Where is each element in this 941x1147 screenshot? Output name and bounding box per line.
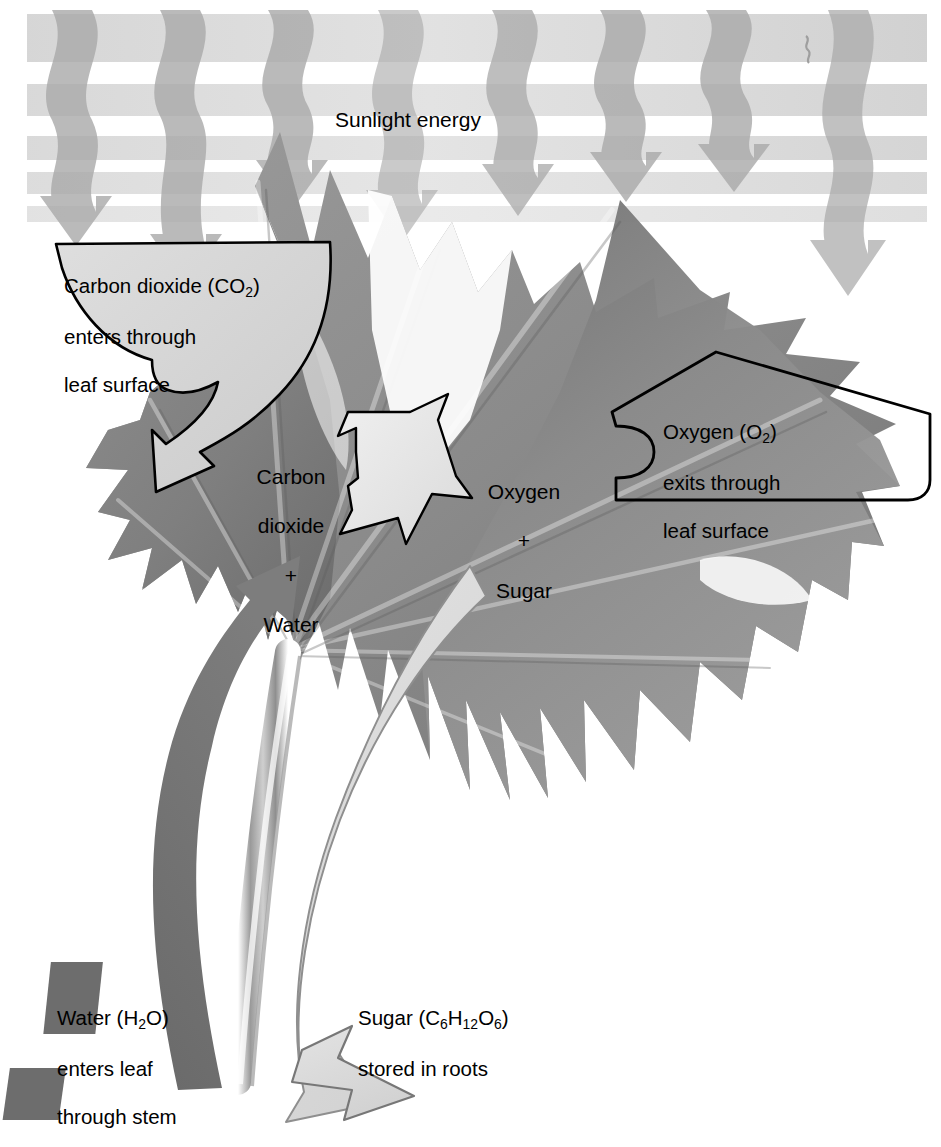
equation-plus-right: + xyxy=(518,529,530,552)
product-1: Oxygen xyxy=(488,480,560,503)
equation-plus-left: + xyxy=(285,564,297,587)
sugar-subscript-h: 12 xyxy=(463,1016,479,1032)
o2-subscript: 2 xyxy=(762,430,770,446)
reactant-2: Water xyxy=(263,613,318,636)
water-line-2: enters leaf xyxy=(57,1057,153,1080)
reactant-1: Carbon xyxy=(257,465,326,488)
water-line-3: through stem xyxy=(57,1105,177,1128)
water-subscript: 2 xyxy=(138,1016,146,1032)
o2-callout-label: Oxygen (O2) exits through leaf surface xyxy=(663,396,780,543)
co2-line-3: leaf surface xyxy=(64,373,170,396)
co2-line-1: Carbon dioxide (CO2) xyxy=(64,274,260,297)
co2-callout-label: Carbon dioxide (CO2) enters through leaf… xyxy=(64,250,260,397)
co2-line-2: enters through xyxy=(64,325,196,348)
sugar-subscript-o: 6 xyxy=(494,1016,502,1032)
sugar-line-1: Sugar (C6H12O6) xyxy=(358,1006,509,1029)
equation-reactants: Carbon dioxide + Water xyxy=(236,440,346,638)
product-2: Sugar xyxy=(496,579,552,602)
sugar-subscript-c: 6 xyxy=(440,1016,448,1032)
reactant-1b: dioxide xyxy=(258,514,325,537)
co2-subscript: 2 xyxy=(245,284,253,300)
sugar-line-2: stored in roots xyxy=(358,1057,488,1080)
sugar-label: Sugar (C6H12O6) stored in roots xyxy=(358,982,509,1081)
o2-line-3: leaf surface xyxy=(663,519,769,542)
o2-line-1: Oxygen (O2) xyxy=(663,420,777,443)
equation-products: Oxygen + Sugar xyxy=(470,455,578,604)
o2-line-2: exits through xyxy=(663,471,780,494)
water-label: Water (H2O) enters leaf through stem xyxy=(57,982,177,1129)
photosynthesis-diagram: Sunlight energy Carbon dioxide (CO2) ent… xyxy=(0,0,941,1147)
water-line-1: Water (H2O) xyxy=(57,1006,169,1029)
sunlight-energy-label: Sunlight energy xyxy=(335,108,481,133)
